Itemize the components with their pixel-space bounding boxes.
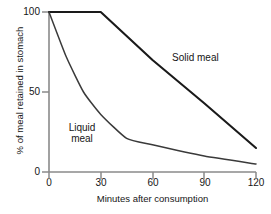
caption-sliver: [0, 207, 271, 214]
series-label-liquid-meal-line2: meal: [60, 133, 104, 144]
plot-canvas: [0, 0, 271, 214]
series-label-liquid-meal: Liquid meal: [60, 122, 104, 144]
series-label-solid-meal: Solid meal: [172, 52, 219, 63]
series-label-liquid-meal-line1: Liquid: [60, 122, 104, 133]
chart-figure: % of meal retained in stomach 100 50 0 0…: [0, 0, 271, 214]
